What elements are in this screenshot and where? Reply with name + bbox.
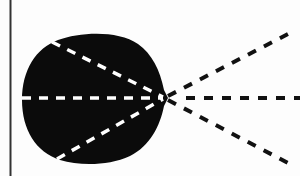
outer-ray-lower — [168, 100, 288, 163]
outer-dashed-rays — [168, 34, 300, 163]
diagram-canvas: Black rounded blob with three white dash… — [0, 0, 300, 176]
outer-ray-upper — [168, 34, 288, 96]
diagram-svg — [0, 0, 300, 176]
